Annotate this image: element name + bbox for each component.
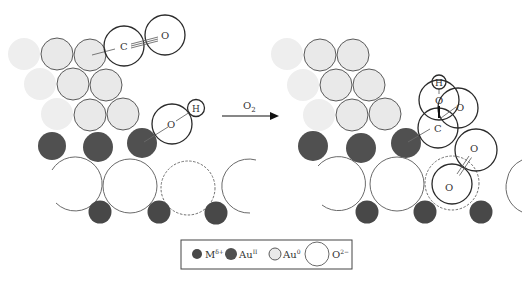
arrow-head-icon [270, 112, 279, 120]
oxygen-label: O [470, 143, 478, 154]
left-panel: C O O H [8, 15, 256, 225]
au0-atom [8, 38, 40, 70]
arrow-label: O2 [243, 100, 256, 114]
au0-atom [107, 98, 139, 130]
au2-atom [127, 128, 157, 158]
o2-adsorbate: O O [432, 129, 497, 204]
au0-atom [271, 38, 303, 70]
oxide-ion [222, 159, 256, 213]
m-cation [470, 201, 493, 224]
reaction-arrow: O2 [222, 100, 279, 120]
au2-atom [346, 133, 376, 163]
au0-atom [303, 99, 335, 131]
oxygen-label: O [435, 95, 443, 106]
m-cation [89, 201, 112, 224]
right-panel: O O H O O C [271, 38, 522, 224]
au2-interface [38, 128, 157, 162]
au0-atom [41, 98, 73, 130]
au0-cluster [271, 38, 401, 131]
au0-atom [287, 69, 319, 101]
oxygen-label: O [167, 119, 175, 130]
oxygen-label: O [456, 102, 464, 113]
m-cation [148, 201, 171, 224]
m-cation [414, 201, 437, 224]
au0-atom [74, 99, 106, 131]
carbon-label: C [434, 123, 442, 134]
metal-cations [356, 201, 493, 224]
au2-atom [298, 131, 328, 161]
au2-atom [83, 132, 113, 162]
oh-bond [176, 112, 190, 121]
au0-atom [353, 69, 385, 101]
au0-atom [320, 69, 352, 101]
au0-atom [41, 38, 73, 70]
hydrogen-label: H [192, 104, 200, 114]
au2-atom [391, 128, 421, 158]
m-cation [205, 202, 228, 225]
au0-atom [74, 39, 106, 71]
legend-swatch-oxide [305, 242, 329, 266]
au0-atom [369, 98, 401, 130]
legend: Mδ+ AuII Au0 O2− [181, 240, 352, 269]
legend-swatch-m [192, 249, 202, 259]
au0-atom [304, 39, 336, 71]
oxide-ion [103, 159, 157, 213]
carbon-label: C [120, 41, 128, 52]
oxide-ion [370, 157, 424, 211]
oxygen-label: O [445, 182, 453, 193]
oxide-ion [506, 160, 522, 212]
hydrogen-label: H [435, 78, 443, 88]
au0-atom [90, 69, 122, 101]
mechanism-diagram: C O O H O2 [0, 0, 527, 284]
au0-atom [337, 39, 369, 71]
au0-atom [336, 99, 368, 131]
m-cation [356, 201, 379, 224]
au0-atom [57, 68, 89, 100]
oxygen-label: O [161, 30, 169, 41]
legend-swatch-au0 [269, 248, 281, 260]
legend-swatch-au2 [225, 248, 237, 260]
oxide-ion [318, 157, 365, 211]
au2-atom [38, 132, 66, 160]
au0-atom [24, 68, 56, 100]
